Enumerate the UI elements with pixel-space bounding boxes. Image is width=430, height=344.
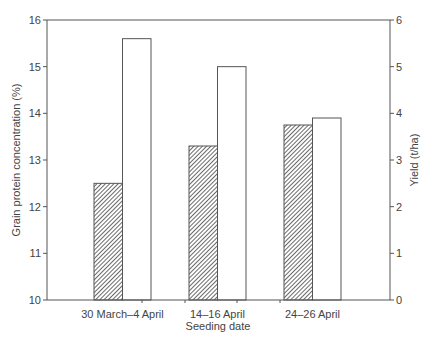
y-tick-label-right: 5 xyxy=(396,61,402,73)
y-tick-label-left: 11 xyxy=(30,247,41,259)
x-tick-label: 24–26 April xyxy=(285,308,340,320)
y-tick-label-right: 4 xyxy=(396,107,402,119)
y-tick-label-right: 2 xyxy=(396,201,402,213)
bar-protein xyxy=(94,183,123,300)
bar-protein xyxy=(189,146,218,300)
bar-yield xyxy=(218,67,247,300)
bar-yield xyxy=(123,39,152,300)
y-tick-label-left: 14 xyxy=(29,107,41,119)
x-axis-label: Seeding date xyxy=(186,320,251,332)
x-tick-label: 14–16 April xyxy=(190,308,245,320)
y-axis-label-left: Grain protein concentration (%) xyxy=(10,84,22,237)
bar-protein xyxy=(284,125,313,300)
y-tick-label-left: 10 xyxy=(29,294,41,306)
y-tick-label-left: 15 xyxy=(29,61,41,73)
y-tick-label-left: 16 xyxy=(29,14,41,26)
y-tick-label-right: 0 xyxy=(396,294,402,306)
bar-yield xyxy=(313,118,342,300)
y-tick-label-right: 1 xyxy=(396,247,402,259)
y-axis-label-right: Yield (t/ha) xyxy=(408,134,420,187)
y-tick-label-right: 3 xyxy=(396,154,402,166)
x-tick-label: 30 March–4 April xyxy=(81,308,164,320)
y-tick-label-left: 12 xyxy=(29,201,41,213)
chart-canvas: 30 March–4 April14–16 April24–26 April10… xyxy=(0,0,430,344)
plot-area: 30 March–4 April14–16 April24–26 April10… xyxy=(10,14,420,332)
y-tick-label-left: 13 xyxy=(29,154,41,166)
y-tick-label-right: 6 xyxy=(396,14,402,26)
